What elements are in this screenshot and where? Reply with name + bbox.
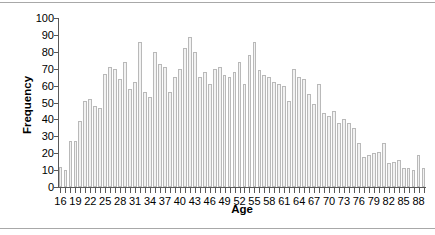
x-axis-tick xyxy=(150,188,151,193)
histogram-bar xyxy=(78,121,82,187)
x-axis-tick xyxy=(100,188,101,193)
x-axis-tick xyxy=(259,188,260,193)
x-axis-line xyxy=(58,187,426,188)
histogram-bar xyxy=(407,168,411,187)
x-axis-tick xyxy=(354,188,355,193)
x-axis-tick xyxy=(200,188,201,193)
histogram-bar xyxy=(153,52,157,187)
x-axis-tick xyxy=(424,188,425,193)
x-axis-tick xyxy=(324,188,325,193)
histogram-bar xyxy=(178,69,182,187)
histogram-bar xyxy=(302,79,306,187)
x-axis-tick xyxy=(185,188,186,193)
y-axis-tick xyxy=(54,119,59,120)
histogram-bar xyxy=(342,119,346,187)
histogram-bar xyxy=(248,55,252,187)
histogram-bar xyxy=(337,123,341,187)
histogram-bar xyxy=(228,77,232,187)
x-axis-tick xyxy=(170,188,171,193)
y-axis-tick xyxy=(54,187,59,188)
histogram-bar xyxy=(93,106,97,187)
histogram-bar xyxy=(272,82,276,187)
y-axis-tick-label: 70 xyxy=(20,64,54,75)
histogram-bar xyxy=(213,69,217,187)
histogram-bar xyxy=(262,75,266,187)
y-axis-tick-label: 80 xyxy=(20,47,54,58)
x-axis-title: Age xyxy=(58,203,426,215)
x-axis-tick xyxy=(249,188,250,193)
x-axis-tick xyxy=(349,188,350,193)
histogram-bar xyxy=(287,101,291,187)
histogram-bar xyxy=(108,67,112,187)
histogram-bar xyxy=(188,37,192,187)
x-axis-tick xyxy=(329,188,330,193)
x-axis-tick xyxy=(309,188,310,193)
x-axis-tick xyxy=(244,188,245,193)
y-axis-tick-label: 50 xyxy=(20,98,54,109)
x-axis-tick xyxy=(175,188,176,193)
x-axis-tick xyxy=(145,188,146,193)
x-axis-tick xyxy=(165,188,166,193)
histogram-bar xyxy=(143,92,147,187)
histogram-bar xyxy=(402,168,406,187)
histogram-bar xyxy=(387,163,391,187)
histogram-bar xyxy=(332,111,336,187)
x-axis-tick xyxy=(115,188,116,193)
x-axis-tick xyxy=(264,188,265,193)
histogram-bar xyxy=(218,67,222,187)
histogram-bar xyxy=(392,162,396,187)
top-divider xyxy=(0,2,435,3)
x-axis-tick xyxy=(379,188,380,193)
x-axis-tick xyxy=(409,188,410,193)
y-axis-tick-label: 20 xyxy=(20,148,54,159)
histogram-bar xyxy=(327,116,331,187)
x-axis-tick xyxy=(110,188,111,193)
y-axis-tick xyxy=(54,35,59,36)
x-axis-tick xyxy=(105,188,106,193)
x-axis-tick xyxy=(284,188,285,193)
y-axis-tick-label: 60 xyxy=(20,81,54,92)
x-axis-tick xyxy=(269,188,270,193)
histogram-bar xyxy=(347,123,351,187)
y-axis-tick-label: 40 xyxy=(20,114,54,125)
histogram-bar xyxy=(183,48,187,187)
histogram-bar xyxy=(282,86,286,187)
y-axis-tick xyxy=(54,52,59,53)
histogram-bar xyxy=(372,153,376,187)
histogram-bar xyxy=(148,97,152,187)
histogram-bar xyxy=(59,167,63,187)
histogram-bar xyxy=(69,141,73,187)
x-axis-tick xyxy=(359,188,360,193)
x-axis-tick xyxy=(225,188,226,193)
histogram-bar xyxy=(253,42,257,187)
histogram-bar xyxy=(128,89,132,187)
x-axis-tick xyxy=(220,188,221,193)
x-axis-tick xyxy=(334,188,335,193)
x-axis-tick xyxy=(65,188,66,193)
y-axis-tick-label: 0 xyxy=(20,182,54,193)
histogram-bar xyxy=(297,77,301,187)
x-axis-tick xyxy=(314,188,315,193)
histogram-bar xyxy=(193,52,197,187)
x-axis-tick xyxy=(399,188,400,193)
x-axis-tick xyxy=(60,188,61,193)
histogram-bar xyxy=(243,84,247,187)
x-axis-tick xyxy=(230,188,231,193)
histogram-figure: Frequency 1009080706050403020100 1619222… xyxy=(0,0,435,235)
x-axis-tick xyxy=(254,188,255,193)
histogram-bar xyxy=(203,72,207,187)
histogram-bar xyxy=(198,77,202,187)
x-axis-tick xyxy=(414,188,415,193)
histogram-bar xyxy=(163,67,167,187)
histogram-bar xyxy=(208,84,212,187)
x-axis-tick xyxy=(85,188,86,193)
x-axis-tick xyxy=(419,188,420,193)
y-axis-tick xyxy=(54,69,59,70)
y-axis-tick xyxy=(54,136,59,137)
histogram-bar xyxy=(362,157,366,187)
x-axis-tick xyxy=(215,188,216,193)
x-axis-tick xyxy=(180,188,181,193)
histogram-bar xyxy=(173,77,177,187)
histogram-bar xyxy=(417,155,421,187)
histogram-bar xyxy=(223,75,227,187)
